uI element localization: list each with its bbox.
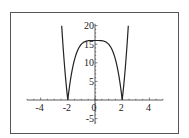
y-tick-label: 20 xyxy=(84,20,94,31)
x-axis-ticks: -4-2024 xyxy=(35,102,150,113)
y-tick-label: 5 xyxy=(89,76,94,87)
function-plot: -4-2024 2015105-5 xyxy=(0,0,189,138)
x-tick-label: -2 xyxy=(63,102,71,113)
x-tick-label: 2 xyxy=(119,102,124,113)
y-tick-label: -5 xyxy=(86,113,94,124)
y-tick-label: 10 xyxy=(84,57,94,68)
plot-frame xyxy=(11,13,179,134)
x-tick-label: 0 xyxy=(92,102,97,113)
x-tick-label: 4 xyxy=(146,102,151,113)
x-tick-label: -4 xyxy=(35,102,43,113)
